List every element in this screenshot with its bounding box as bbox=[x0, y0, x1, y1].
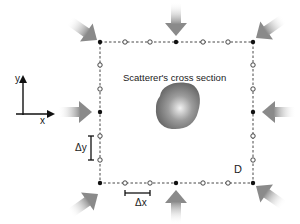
scatterer-shape bbox=[156, 83, 200, 130]
antenna-top-icon bbox=[165, 2, 187, 36]
antenna-bottom-left-icon bbox=[64, 185, 104, 223]
x-axis-label: x bbox=[40, 115, 45, 126]
antenna-left-icon bbox=[58, 101, 92, 123]
y-axis-label: y bbox=[15, 73, 20, 84]
antenna-top-right-icon bbox=[250, 9, 290, 47]
diagram-canvas bbox=[0, 0, 300, 224]
scatterer-title: Scatterer's cross section bbox=[123, 72, 226, 83]
dx-label: Δx bbox=[135, 197, 147, 208]
antenna-right-icon bbox=[262, 101, 296, 123]
antenna-top-left-icon bbox=[63, 11, 103, 49]
antenna-bottom-right-icon bbox=[250, 177, 290, 215]
dy-dimension-marker bbox=[88, 136, 94, 160]
antenna-bottom-icon bbox=[165, 190, 187, 224]
dx-dimension-marker bbox=[125, 190, 150, 196]
coordinate-axes-icon bbox=[16, 75, 55, 118]
domain-label: D bbox=[234, 163, 242, 175]
dy-label: Δy bbox=[75, 142, 87, 153]
